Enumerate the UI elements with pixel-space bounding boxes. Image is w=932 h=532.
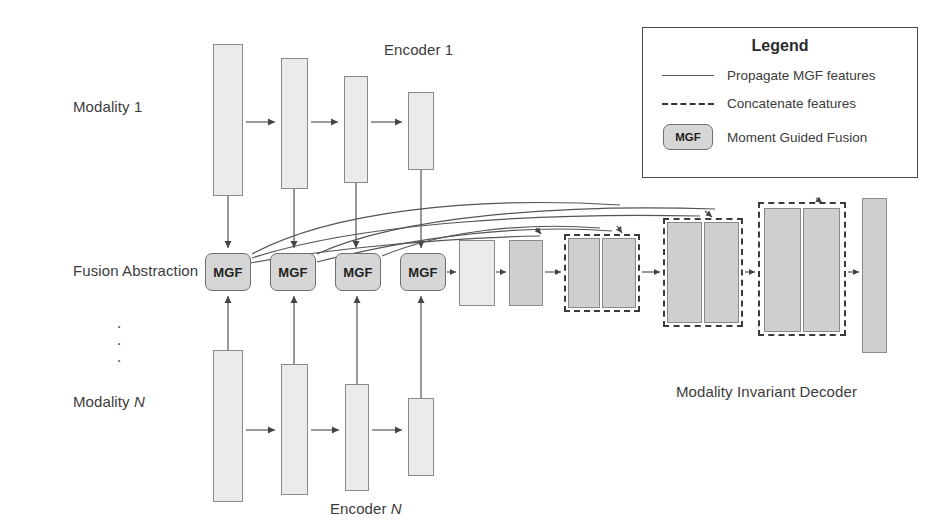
ellipsis-dot-2: · xyxy=(110,335,128,352)
concat-group-1 xyxy=(564,234,640,312)
mgf-block-4[interactable]: MGF xyxy=(400,253,446,291)
label-modality-invariant-decoder: Modality Invariant Decoder xyxy=(676,383,857,400)
legend-box: Legend Propagate MGF features Concatenat… xyxy=(642,27,918,178)
dashed-line-icon xyxy=(657,103,719,105)
decoder-block-1 xyxy=(459,240,495,306)
modality-ellipsis: · · · xyxy=(110,318,128,369)
mgf-block-1[interactable]: MGF xyxy=(205,253,251,291)
legend-label-mgf: Moment Guided Fusion xyxy=(727,130,867,145)
skip-arrowhead-3 xyxy=(705,211,712,217)
encoder-bottom-block-3 xyxy=(345,384,369,491)
encoder-top-block-4 xyxy=(408,92,434,170)
mgf-block-3[interactable]: MGF xyxy=(335,253,381,291)
legend-entry-mgf: MGF Moment Guided Fusion xyxy=(643,124,917,150)
encoder-bottom-block-4 xyxy=(408,398,434,476)
ellipsis-dot-1: · xyxy=(110,318,128,335)
skip-arrowhead-1 xyxy=(536,228,541,234)
ellipsis-dot-3: · xyxy=(110,352,128,369)
diagram-canvas: Modality 1 Modality N Fusion Abstraction… xyxy=(0,0,932,532)
label-modality-n: Modality N xyxy=(73,393,145,410)
legend-label-concatenate: Concatenate features xyxy=(727,96,856,111)
legend-mgf-chip-label: MGF xyxy=(663,124,713,150)
concat-group-3 xyxy=(758,202,846,336)
concat-group-2 xyxy=(663,218,743,327)
decoder-block-2 xyxy=(509,240,543,306)
legend-entry-concatenate: Concatenate features xyxy=(643,96,917,111)
label-modality-1: Modality 1 xyxy=(73,98,142,115)
mgf-chip-icon: MGF xyxy=(657,124,719,150)
encoder-top-block-3 xyxy=(344,76,368,183)
encoder-bottom-block-2 xyxy=(281,364,308,495)
mgf-block-2[interactable]: MGF xyxy=(270,253,316,291)
legend-label-propagate: Propagate MGF features xyxy=(727,68,876,83)
encoder-top-block-1 xyxy=(213,44,243,196)
label-fusion-abstraction: Fusion Abstraction xyxy=(73,262,198,279)
label-encoder-n: Encoder N xyxy=(330,500,402,517)
encoder-top-block-2 xyxy=(281,58,308,189)
solid-line-icon xyxy=(657,75,719,76)
decoder-block-9 xyxy=(862,198,887,353)
skip-arrowhead-2 xyxy=(617,226,622,233)
encoder-bottom-block-1 xyxy=(213,350,243,502)
legend-entry-propagate: Propagate MGF features xyxy=(643,68,917,83)
label-encoder-1: Encoder 1 xyxy=(384,41,453,58)
legend-title: Legend xyxy=(643,37,917,55)
